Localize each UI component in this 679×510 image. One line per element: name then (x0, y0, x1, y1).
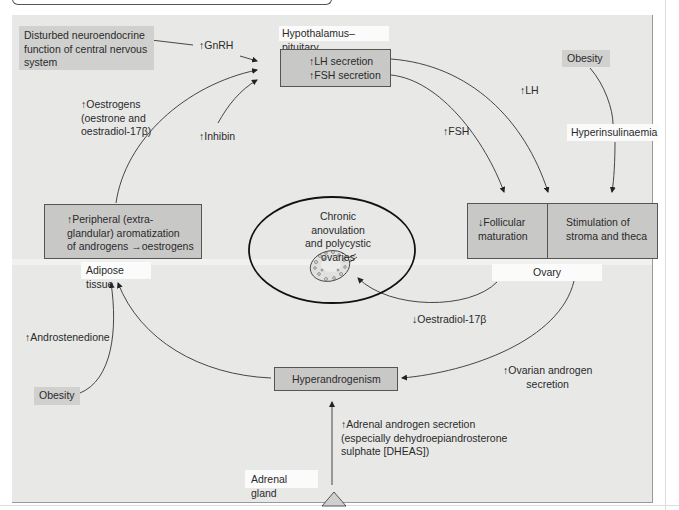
arrow-oestradiol (358, 278, 497, 303)
arrow-inhibin (218, 80, 257, 123)
arrow-hyperinsulinaemia-stroma (612, 142, 615, 192)
androstenedione-label: ↑Androstenedione (25, 331, 110, 345)
ovarian-androgen-label: ↑Ovarian androgen secretion (503, 364, 592, 391)
arrow-hyperandrogenism-adipose (118, 283, 271, 378)
chronic-anovulation-label: Chronic anovulation and polycystic ovari… (293, 210, 383, 264)
adrenal-gland-label: Adrenal gland (245, 470, 318, 488)
oestrogens-label: ↑Oestrogens (oestrone and oestradiol-17β… (81, 98, 151, 139)
arrow-cns-gnrh (151, 40, 193, 45)
peripheral-aromatization-box: ↑Peripheral (extra- glandular) aromatiza… (44, 204, 202, 259)
hypothalamus-pituitary-label: Hypothalamus–pituitary (279, 26, 389, 41)
adrenal-gland-icon (322, 492, 346, 506)
obesity-top-node: Obesity (562, 50, 610, 67)
arrow-lh (391, 59, 548, 192)
arrow-gnrh-hypothalamus (240, 56, 257, 61)
adrenal-androgen-label: ↑Adrenal androgen secretion (especially … (341, 418, 507, 459)
lh-fsh-secretion-box: ↑LH secretion ↑FSH secretion (280, 49, 391, 87)
disturbed-cns-node: Disturbed neuroendocrine function of cen… (19, 26, 154, 70)
ovary-label: Ovary (492, 264, 602, 281)
obesity-bottom-node: Obesity (34, 387, 80, 405)
hyperandrogenism-box: Hyperandrogenism (274, 367, 398, 391)
oestradiol-down-label: ↓Oestradiol-17β (412, 313, 486, 327)
follicular-maturation-box: ↓Follicular maturation (467, 203, 547, 259)
lh-label: ↑LH (520, 84, 539, 98)
inhibin-label: ↑Inhibin (199, 130, 235, 144)
line-obesity-hyperinsulinaemia (590, 68, 613, 124)
gnrh-label: ↑GnRH (199, 39, 233, 53)
adipose-tissue-label: Adipose tissue (81, 262, 151, 279)
hyperinsulinaemia-node: Hyperinsulinaemia (567, 124, 659, 141)
stroma-theca-box: Stimulation of stroma and theca (547, 203, 658, 259)
fsh-label: ↑FSH (443, 125, 469, 139)
